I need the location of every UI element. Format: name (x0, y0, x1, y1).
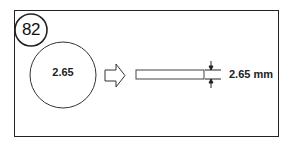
block-arrow-right-icon (105, 64, 125, 87)
dimension-arrows-icon (205, 61, 221, 88)
figure-number: 82 (15, 14, 47, 46)
circle-label: 2.65 (30, 66, 96, 78)
dimension-label: 2.65 mm (229, 68, 273, 80)
rod-icon (136, 70, 204, 79)
